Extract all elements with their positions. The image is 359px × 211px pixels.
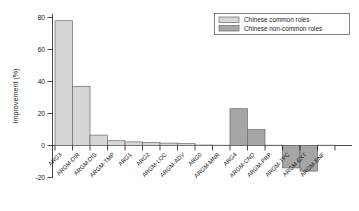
legend-label-common: Chinese common roles <box>244 16 309 23</box>
bar-ARG2[interactable] <box>143 143 161 146</box>
cat-label-ARG2: ARG2 <box>135 151 151 167</box>
bar-ARG1[interactable] <box>125 142 143 146</box>
legend-label-non-common: Chinese non-common roles <box>244 25 322 32</box>
cat-label-ARG4: ARG4 <box>222 151 238 167</box>
chart-figure: 80 60 40 20 0 -20 Improvement (%) <box>0 0 359 211</box>
y-tick-label-60: 60 <box>38 46 46 53</box>
legend-swatch-non-common <box>219 26 239 32</box>
y-tick-label-20: 20 <box>38 110 46 117</box>
cat-label-ARG0: ARG0 <box>187 151 203 167</box>
bar-ARGM-CND[interactable] <box>248 130 266 146</box>
bar-ARGM-DIR[interactable] <box>73 86 91 145</box>
bar-ARGM-ADV[interactable] <box>178 144 196 146</box>
bar-ARGM-TMP[interactable] <box>108 141 126 146</box>
y-axis-ticks <box>48 18 53 178</box>
y-axis-title: Improvement (%) <box>11 68 20 123</box>
bar-group-common <box>55 21 230 146</box>
cat-label-ARG3: ARG3 <box>47 151 63 167</box>
bar-ARG0[interactable] <box>195 145 213 146</box>
y-tick-label-80: 80 <box>38 14 46 21</box>
y-tick-label-0: 0 <box>41 142 45 149</box>
y-tick-label-neg20: -20 <box>35 174 45 181</box>
bar-ARG4[interactable] <box>230 109 248 146</box>
chart-legend: Chinese common roles Chinese non-common … <box>215 14 350 35</box>
y-tick-label-40: 40 <box>38 78 46 85</box>
cat-label-ARG1: ARG1 <box>117 151 133 167</box>
bar-ARGM-LOC[interactable] <box>160 143 178 145</box>
bar-ARGM-DIS[interactable] <box>90 135 108 145</box>
bar-chart-svg: 80 60 40 20 0 -20 Improvement (%) <box>0 0 359 211</box>
bar-ARG3[interactable] <box>55 21 73 146</box>
legend-swatch-common <box>219 17 239 23</box>
